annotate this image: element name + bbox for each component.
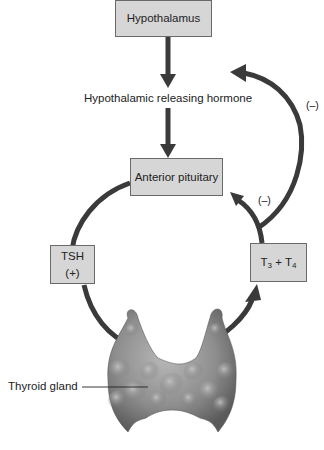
outer-feedback-sign: (–): [306, 99, 319, 111]
anterior-pituitary-box: Anterior pituitary: [130, 158, 223, 196]
t3-t4-label: T3 + T4: [261, 254, 297, 272]
tsh-sign: (+): [65, 265, 79, 282]
releasing-hormone-label: Hypothalamic releasing hormone: [83, 92, 253, 104]
thyroid-gland-label: Thyroid gland: [8, 380, 78, 392]
hypothalamus-box: Hypothalamus: [115, 0, 212, 37]
tsh-box: TSH (+): [50, 245, 95, 284]
thyroid-gland-illustration: [108, 309, 236, 432]
hypothalamus-label: Hypothalamus: [127, 10, 201, 27]
inner-feedback-sign: (–): [258, 194, 271, 206]
arrow-hypothalamus-to-releasing: [160, 37, 176, 88]
t3-t4-box: T3 + T4: [250, 243, 307, 282]
anterior-pituitary-label: Anterior pituitary: [135, 169, 219, 186]
tsh-label: TSH: [61, 248, 84, 265]
arrow-releasing-to-pituitary: [160, 108, 176, 158]
